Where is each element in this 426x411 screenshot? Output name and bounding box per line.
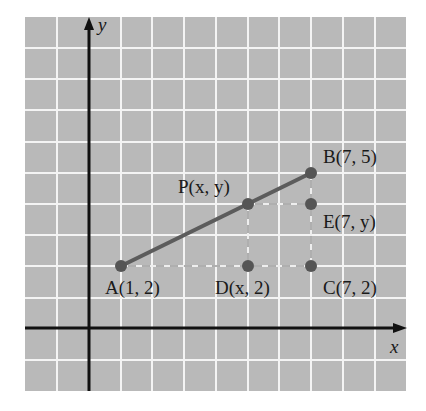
point-c xyxy=(305,260,317,272)
label-b: B(7, 5) xyxy=(323,146,377,168)
label-d: D(x, 2) xyxy=(215,277,270,299)
point-a xyxy=(115,260,127,272)
point-b xyxy=(305,167,317,179)
point-p xyxy=(242,198,254,210)
coordinate-plane: y x A(1, 2) B(7, 5) P(x, y) E(7, y) D(x,… xyxy=(0,0,426,411)
label-c: C(7, 2) xyxy=(323,277,377,299)
label-e: E(7, y) xyxy=(323,211,376,233)
point-e xyxy=(305,198,317,210)
label-p: P(x, y) xyxy=(178,176,230,198)
y-axis-label: y xyxy=(96,14,107,35)
x-axis-label: x xyxy=(389,336,399,357)
label-a: A(1, 2) xyxy=(105,277,160,299)
point-d xyxy=(242,260,254,272)
